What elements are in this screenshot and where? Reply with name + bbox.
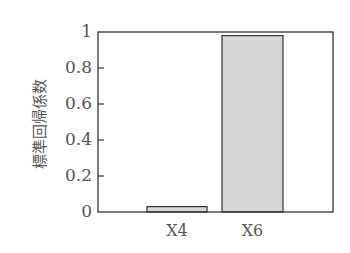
bar-chart: 標準回帰係数 00.20.40.60.81 X4X6 [0,0,350,253]
plot-frame [98,32,333,212]
bars [147,36,283,212]
y-tick-label: 0.8 [65,57,92,77]
y-tick-label: 0.4 [65,129,92,149]
y-tick-label: 0 [81,201,92,221]
bar-x6 [222,36,283,212]
y-axis-label-group: 標準回帰係数 [31,79,49,169]
y-axis-label: 標準回帰係数 [31,79,49,169]
bar-x4 [147,207,207,212]
y-tick-label: 1 [81,21,92,41]
x-category-label: X4 [166,221,188,240]
y-tick-label: 0.6 [65,93,92,113]
y-tick-label: 0.2 [65,165,92,185]
x-category-label: X6 [242,221,264,240]
x-axis-labels: X4X6 [166,221,263,240]
